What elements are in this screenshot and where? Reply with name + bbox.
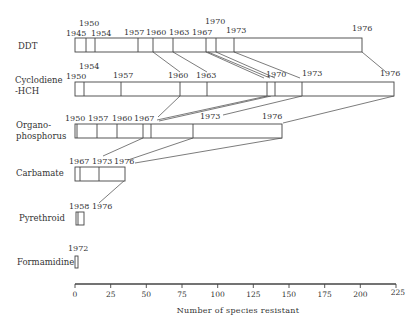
bar-formamidine [75,256,78,268]
svg-text:1967: 1967 [134,114,154,123]
svg-text:1945: 1945 [66,29,86,38]
svg-text:150: 150 [282,290,297,299]
svg-text:50: 50 [142,290,152,299]
svg-text:75: 75 [177,290,187,299]
year-labels-cyclodiene: 1954 1950 1957 1960 1963 1970 1973 1976 [66,62,400,81]
svg-text:1976: 1976 [262,112,282,121]
svg-text:1967: 1967 [192,28,212,37]
category-label-pyrethroid: Pyrethroid [19,213,65,223]
category-label-carbamate: Carbamate [16,168,64,178]
svg-text:200: 200 [353,290,368,299]
x-axis [75,284,396,288]
year-labels-pyrethroid: 1958 1976 [69,202,112,211]
svg-text:1967: 1967 [69,157,89,166]
svg-text:100: 100 [211,290,226,299]
category-label-cyclodiene: Cyclodiene [15,75,63,85]
svg-text:1958: 1958 [69,202,89,211]
svg-text:1950: 1950 [65,114,85,123]
category-label-organo: Organo- [16,120,51,130]
svg-text:1957: 1957 [124,28,144,37]
bar-carbamate [75,167,125,181]
svg-text:1970: 1970 [205,17,225,26]
svg-text:1976: 1976 [114,157,134,166]
svg-text:225: 225 [391,288,406,297]
svg-text:1954: 1954 [91,29,111,38]
bar-ddt [75,38,362,52]
svg-text:175: 175 [318,290,333,299]
category-label-hch: -HCH [15,86,39,96]
resistance-chart: DDT Cyclodiene -HCH Organo- phosphorus C… [0,0,416,324]
svg-text:1954: 1954 [79,62,99,71]
x-tick-labels: 0 25 50 75 100 125 150 175 200 225 [73,288,406,299]
svg-text:1973: 1973 [226,26,246,35]
svg-text:125: 125 [246,290,261,299]
year-labels-carbamate: 1967 1973 1976 [69,157,134,166]
x-axis-title: Number of species resistant [177,306,300,315]
category-label-formamidine: Formamidine [17,257,74,267]
svg-text:1960: 1960 [168,71,188,80]
svg-text:1963: 1963 [196,71,216,80]
year-label-formamidine: 1972 [68,244,88,253]
bar-pyrethroid [76,212,84,225]
svg-text:0: 0 [73,290,78,299]
svg-text:1950: 1950 [66,72,86,81]
svg-text:1957: 1957 [113,71,133,80]
svg-text:1973: 1973 [200,112,220,121]
bar-cyclodiene [75,82,394,96]
bar-organophosphorus [75,124,282,138]
svg-text:1963: 1963 [169,28,189,37]
svg-text:1973: 1973 [92,157,112,166]
svg-text:1976: 1976 [352,24,372,33]
category-label-ddt: DDT [18,41,38,51]
svg-text:1950: 1950 [79,19,99,28]
svg-text:1976: 1976 [380,69,400,78]
svg-text:1970: 1970 [266,70,286,79]
year-labels-ddt: 1950 1945 1954 1957 1960 1963 1967 1970 … [66,17,372,38]
svg-text:1957: 1957 [88,114,108,123]
svg-text:1973: 1973 [302,69,322,78]
svg-text:1960: 1960 [146,28,166,37]
category-label-phosphorus: phosphorus [16,131,66,141]
svg-text:25: 25 [106,290,116,299]
svg-text:1960: 1960 [112,114,132,123]
svg-text:1976: 1976 [92,202,112,211]
